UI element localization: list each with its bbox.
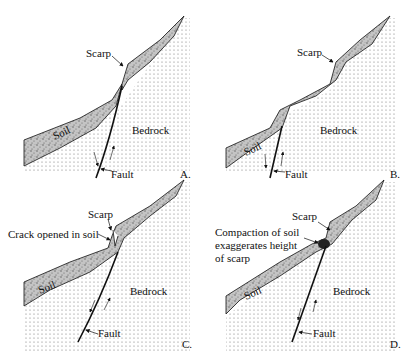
bedrock-label: Bedrock [130, 285, 168, 297]
panel-letter-b: B. [390, 168, 400, 180]
scarp-leader [108, 219, 111, 230]
bedrock-region [226, 182, 396, 352]
fault-label: Fault [285, 168, 308, 180]
compaction-leader [304, 238, 318, 243]
fault-label: Fault [98, 327, 121, 339]
fault-scarp-diagram: Scarp Soil Bedrock Fault A. Scarp Soil B… [0, 0, 414, 361]
panel-d: Scarp Compaction of soil exaggerates hei… [215, 180, 401, 352]
bedrock-label: Bedrock [333, 285, 371, 297]
scarp-leader [322, 55, 333, 62]
compaction-label-line2: exaggerates height [215, 239, 297, 251]
scarp-leader [318, 222, 330, 230]
bedrock-label: Bedrock [132, 124, 170, 136]
panel-b: Scarp Soil Bedrock Fault B. [226, 16, 400, 180]
scarp-label: Scarp [86, 47, 112, 59]
panel-letter-a: A. [180, 168, 191, 180]
scarp-label: Scarp [292, 210, 318, 222]
compaction-label-line1: Compaction of soil [215, 226, 299, 238]
crack-label: Crack opened in soil [8, 228, 99, 240]
panel-c: Scarp Crack opened in soil Soil Bedrock … [8, 180, 192, 352]
scarp-label: Scarp [297, 46, 323, 58]
compaction-label-line3: of scarp [215, 252, 251, 264]
compaction-zone [318, 239, 330, 249]
scarp-label: Scarp [88, 208, 114, 220]
panel-letter-c: C. [182, 338, 192, 350]
bedrock-label: Bedrock [320, 124, 358, 136]
scarp-leader [112, 56, 123, 66]
panel-a: Scarp Soil Bedrock Fault A. [24, 16, 191, 180]
crack-leader [98, 234, 110, 240]
fault-label: Fault [313, 327, 336, 339]
panel-letter-d: D. [390, 338, 401, 350]
fault-label: Fault [111, 168, 134, 180]
